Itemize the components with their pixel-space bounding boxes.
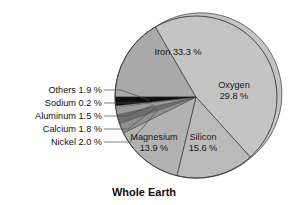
callout-label-calcium: Calcium 1.8 % (43, 124, 102, 134)
pie-chart-figure: Iron 33.3 % Oxygen 29.8 % Silicon 15.6 %… (0, 0, 289, 205)
pie-slices (115, 13, 282, 178)
slice-label-oxygen-line1: Oxygen (218, 80, 250, 90)
slice-label-iron: Iron 33.3 % (155, 47, 202, 57)
callout-label-aluminum: Aluminum 1.5 % (35, 111, 102, 121)
callout-label-nickel: Nickel 2.0 % (51, 137, 102, 147)
slice-label-magnesium-line1: Magnesium (130, 132, 178, 142)
slice-label-silicon-line2: 15.6 % (189, 143, 218, 153)
callout-labels: Others 1.9 % Sodium 0.2 % Aluminum 1.5 %… (35, 85, 102, 147)
slice-label-magnesium-line2: 13.9 % (140, 143, 169, 153)
callout-label-others: Others 1.9 % (48, 85, 102, 95)
slice-label-oxygen-line2: 29.8 % (220, 91, 249, 101)
slice-label-silicon-line1: Silicon (189, 132, 216, 142)
whole-earth-pie-chart: Iron 33.3 % Oxygen 29.8 % Silicon 15.6 %… (0, 0, 289, 205)
callout-label-sodium: Sodium 0.2 % (45, 98, 102, 108)
chart-title: Whole Earth (112, 186, 176, 198)
